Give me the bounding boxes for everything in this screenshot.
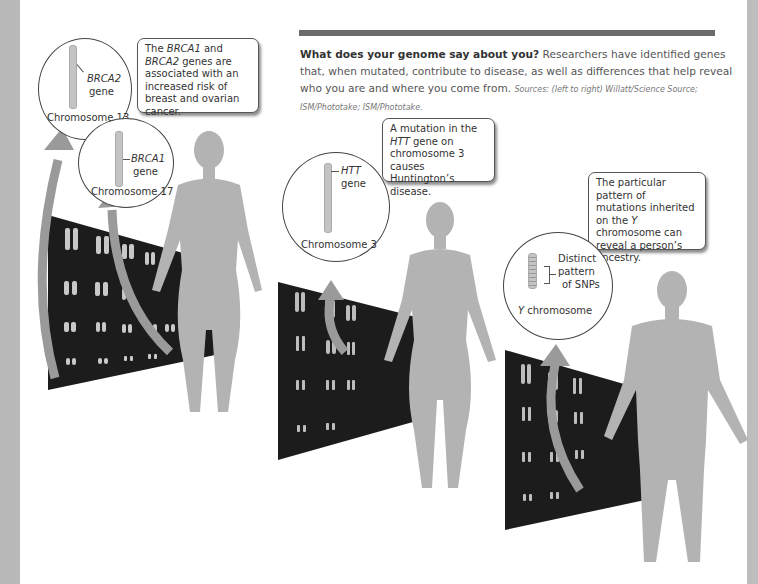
gene-brca1-label: BRCA1: [131, 153, 165, 164]
chromosome-3-icon: [324, 163, 332, 233]
snp-label-line1: Distinct: [558, 253, 596, 264]
gene-pointer-line: [550, 274, 556, 275]
chromosome-17-circle: BRCA1 gene Chromosome 17: [78, 118, 174, 208]
gene-pointer-line: [123, 159, 130, 160]
gene-pointer-line: [77, 64, 84, 72]
chromosome-13-icon: [69, 45, 77, 109]
callout-text: and: [201, 43, 223, 54]
gene-brca2-label: BRCA2: [87, 73, 121, 84]
y-italic-text: Y: [631, 215, 637, 226]
y-chromosome-circle: Distinct pattern of SNPs Y chromosome: [503, 232, 613, 340]
gene-word-label: gene: [133, 166, 158, 177]
callout-text: The: [145, 43, 167, 54]
callout-y-chromosome: The particular pattern of mutations inhe…: [588, 172, 706, 250]
callout-htt: A mutation in the HTT gene on chromosome…: [382, 118, 495, 182]
gene-htt-text: HTT: [390, 136, 410, 147]
snp-bracket-icon: [544, 266, 550, 284]
chromosome-17-icon: [115, 131, 123, 187]
gene-word-label: gene: [341, 178, 366, 189]
callout-text: The particular pattern of mutations inhe…: [596, 177, 695, 226]
karyotype-image-3: [505, 350, 645, 530]
gene-htt-label: HTT: [341, 165, 361, 176]
chromosome-3-circle: HTT gene Chromosome 3: [282, 152, 390, 262]
chromosome-3-label: Chromosome 3: [301, 239, 377, 250]
gene-pointer-line: [331, 171, 339, 172]
snp-label-line3: of SNPs: [562, 279, 600, 290]
chromosome-word-label: chromosome: [524, 305, 592, 316]
callout-text: A mutation in the: [390, 123, 477, 134]
y-chromosome-icon: [528, 253, 537, 289]
gene-word-label: gene: [89, 86, 114, 97]
snp-label-line2: pattern: [558, 266, 595, 277]
callout-brca: The BRCA1 and BRCA2 genes are associated…: [137, 38, 259, 113]
gene-brca2-text: BRCA2: [145, 56, 179, 67]
chromosome-17-label: Chromosome 17: [91, 186, 173, 197]
gene-brca1-text: BRCA1: [167, 43, 201, 54]
y-chromosome-label: Y chromosome: [518, 305, 592, 316]
